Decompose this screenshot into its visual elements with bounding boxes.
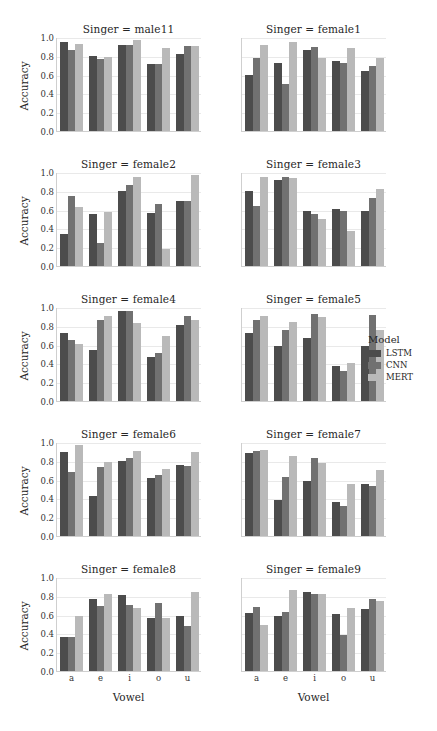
bar-lstm-u	[361, 609, 369, 671]
bar-cnn-u	[369, 66, 377, 131]
ytick-label: 0.0	[40, 398, 54, 407]
facet-title: Singer = female5	[241, 291, 386, 308]
bar-mert-i	[133, 608, 141, 671]
ytick-label: 0.0	[40, 533, 54, 542]
bar-lstm-e	[274, 500, 282, 536]
bar-cnn-o	[340, 211, 348, 266]
bar-mert-e	[104, 212, 112, 266]
bar-cnn-a	[253, 451, 261, 536]
bar-cnn-a	[68, 196, 76, 266]
plot-area: 0.00.20.40.60.81.0	[56, 308, 201, 402]
facet-female7: Singer = female7	[241, 426, 386, 537]
ytick-label: 0.6	[40, 476, 54, 485]
axes: 0.00.20.40.60.81.0	[56, 173, 201, 267]
ytick-label: 0.2	[40, 379, 54, 388]
bar-mert-a	[75, 207, 83, 266]
bar-lstm-i	[118, 45, 126, 131]
bars-layer	[242, 308, 386, 401]
facet-female9: Singer = female9aeiou	[241, 561, 386, 672]
bar-mert-i	[318, 219, 326, 266]
bar-lstm-a	[60, 234, 68, 266]
bar-cnn-i	[311, 314, 319, 401]
bars-layer	[242, 173, 386, 266]
ytick-label: 0.4	[40, 360, 54, 369]
bar-mert-e	[104, 594, 112, 671]
bar-mert-o	[162, 249, 170, 266]
bar-cnn-e	[97, 243, 105, 267]
bar-cnn-u	[184, 201, 192, 266]
bar-cnn-a	[68, 50, 76, 131]
axes	[241, 173, 386, 267]
bar-cnn-i	[126, 185, 134, 266]
y-axis-label: Accuracy	[18, 579, 30, 673]
figure-canvas: Singer = male110.00.20.40.60.81.0Accurac…	[0, 0, 437, 731]
facet-female3: Singer = female3	[241, 156, 386, 267]
bar-cnn-u	[184, 316, 192, 401]
bar-lstm-a	[245, 453, 253, 536]
plot-area	[241, 38, 386, 132]
bar-cnn-i	[311, 47, 319, 131]
bar-mert-e	[104, 57, 112, 131]
facet-female2: Singer = female20.00.20.40.60.81.0	[56, 156, 201, 267]
bar-cnn-a	[253, 206, 261, 266]
ytick-label: 1.0	[40, 34, 54, 43]
facet-male11: Singer = male110.00.20.40.60.81.0	[56, 21, 201, 132]
bar-cnn-i	[126, 311, 134, 401]
bar-cnn-o	[340, 506, 348, 536]
bar-cnn-i	[311, 458, 319, 536]
bar-mert-i	[318, 594, 326, 671]
bar-lstm-u	[176, 325, 184, 401]
ytick-label: 0.4	[40, 495, 54, 504]
bar-cnn-a	[253, 607, 261, 671]
ytick-label: 0.8	[40, 323, 54, 332]
legend-item-cnn[interactable]: CNN	[368, 361, 437, 370]
facet-title: Singer = female4	[56, 291, 201, 308]
bar-lstm-o	[147, 478, 155, 536]
axes	[241, 38, 386, 132]
bar-mert-u	[376, 470, 384, 536]
bar-lstm-e	[274, 616, 282, 671]
bar-cnn-u	[369, 599, 377, 671]
ytick-label: 0.6	[40, 71, 54, 80]
bar-cnn-u	[369, 198, 377, 266]
x-axis-label: Vowel	[56, 691, 201, 703]
axes: 0.00.20.40.60.81.0aeiou	[56, 578, 201, 672]
bar-lstm-u	[176, 465, 184, 536]
bar-cnn-o	[155, 603, 163, 671]
bar-cnn-a	[68, 637, 76, 671]
bar-mert-a	[75, 44, 83, 131]
legend-item-mert[interactable]: MERT	[368, 373, 437, 382]
bar-lstm-a	[245, 191, 253, 266]
legend-item-lstm[interactable]: LSTM	[368, 349, 437, 358]
bar-lstm-i	[303, 211, 311, 266]
plot-area	[241, 443, 386, 537]
facet-female1: Singer = female1	[241, 21, 386, 132]
bar-cnn-e	[97, 59, 105, 131]
bar-mert-a	[75, 616, 83, 671]
ytick-label: 0.2	[40, 649, 54, 658]
x-axis-label: Vowel	[241, 691, 386, 703]
plot-area: 0.00.20.40.60.81.0	[56, 443, 201, 537]
bar-cnn-i	[126, 605, 134, 671]
bar-lstm-a	[60, 452, 68, 536]
ytick-label: 1.0	[40, 169, 54, 178]
bar-mert-a	[75, 445, 83, 536]
bar-mert-u	[191, 320, 199, 401]
xtick-label: a	[69, 674, 74, 683]
ytick-label: 0.0	[40, 668, 54, 677]
bar-lstm-e	[274, 63, 282, 131]
facet-title: Singer = female2	[56, 156, 201, 173]
bar-cnn-o	[155, 475, 163, 536]
ytick-label: 1.0	[40, 439, 54, 448]
bar-mert-e	[289, 322, 297, 401]
ytick-label: 1.0	[40, 304, 54, 313]
bar-cnn-e	[97, 320, 105, 401]
bar-lstm-e	[89, 599, 97, 671]
bar-lstm-o	[332, 614, 340, 671]
bar-lstm-o	[147, 213, 155, 266]
xtick-label: u	[370, 674, 375, 683]
bar-mert-o	[162, 469, 170, 536]
bars-layer	[57, 308, 201, 401]
bars-layer	[57, 578, 201, 671]
bar-cnn-e	[282, 177, 290, 266]
